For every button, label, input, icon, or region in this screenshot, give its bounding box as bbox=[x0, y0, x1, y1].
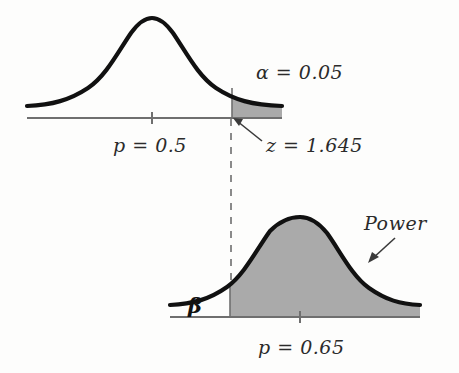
power-label: Power bbox=[363, 212, 428, 234]
null-distribution-group bbox=[27, 18, 282, 124]
power-arrow bbox=[368, 238, 395, 263]
power-diagram: α = 0.05 z = 1.645 p = 0.5 β Power p = 0… bbox=[0, 0, 459, 373]
diagram-canvas: α = 0.05 z = 1.645 p = 0.5 β Power p = 0… bbox=[0, 0, 459, 373]
z-critical-arrow bbox=[233, 118, 262, 141]
null-distribution-curve bbox=[27, 18, 282, 106]
alt-mean-label: p = 0.65 bbox=[258, 336, 344, 358]
alpha-label: α = 0.05 bbox=[256, 61, 343, 83]
null-mean-label: p = 0.5 bbox=[113, 134, 187, 156]
z-critical-label: z = 1.645 bbox=[265, 134, 363, 156]
beta-label: β bbox=[187, 293, 202, 318]
